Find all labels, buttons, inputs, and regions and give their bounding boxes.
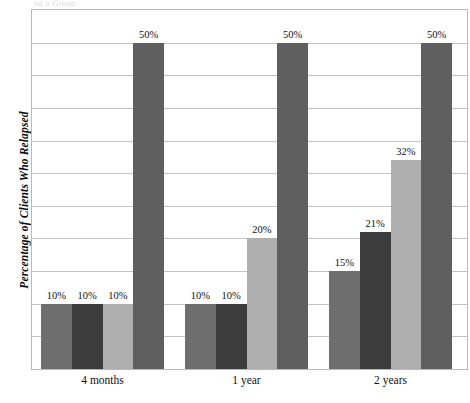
bar: 50% bbox=[133, 43, 164, 369]
bar-value-label: 21% bbox=[366, 217, 385, 231]
bar: 15% bbox=[329, 271, 360, 369]
bar-value-label: 15% bbox=[335, 256, 354, 270]
bar-value-label: 50% bbox=[139, 28, 158, 42]
bar: 10% bbox=[103, 304, 134, 369]
bar-value-label: 10% bbox=[47, 289, 66, 303]
bar-group: 10%10%20%50% bbox=[185, 10, 308, 369]
bar-group: 10%10%10%50% bbox=[41, 10, 164, 369]
bar-value-label: 50% bbox=[283, 28, 302, 42]
relapse-bar-chart: ng a Group Percentage of Clients Who Rel… bbox=[0, 0, 470, 403]
bar-value-label: 50% bbox=[427, 28, 446, 42]
bar: 10% bbox=[185, 304, 216, 369]
bar-group: 15%21%32%50% bbox=[329, 10, 452, 369]
bar: 10% bbox=[72, 304, 103, 369]
bar-value-label: 20% bbox=[252, 223, 271, 237]
x-axis-label: 4 months bbox=[41, 374, 164, 386]
bar: 21% bbox=[360, 232, 391, 369]
bar: 50% bbox=[277, 43, 308, 369]
x-axis-label: 1 year bbox=[185, 374, 308, 386]
x-axis-label: 2 years bbox=[329, 374, 452, 386]
bar: 10% bbox=[216, 304, 247, 369]
bar: 50% bbox=[421, 43, 452, 369]
bar-value-label: 10% bbox=[108, 289, 127, 303]
bar-value-label: 10% bbox=[222, 289, 241, 303]
clipped-header-text: ng a Group bbox=[34, 0, 154, 7]
bar-value-label: 32% bbox=[396, 145, 415, 159]
bar-value-label: 10% bbox=[78, 289, 97, 303]
bar: 20% bbox=[247, 238, 278, 369]
bars-layer: 10%10%10%50%10%10%20%50%15%21%32%50% bbox=[32, 10, 467, 369]
bar: 32% bbox=[391, 160, 422, 369]
x-axis-category-labels: 4 months1 year2 years bbox=[32, 374, 467, 394]
bar: 10% bbox=[41, 304, 72, 369]
bar-value-label: 10% bbox=[191, 289, 210, 303]
y-axis-title: Percentage of Clients Who Relapsed bbox=[18, 85, 30, 315]
